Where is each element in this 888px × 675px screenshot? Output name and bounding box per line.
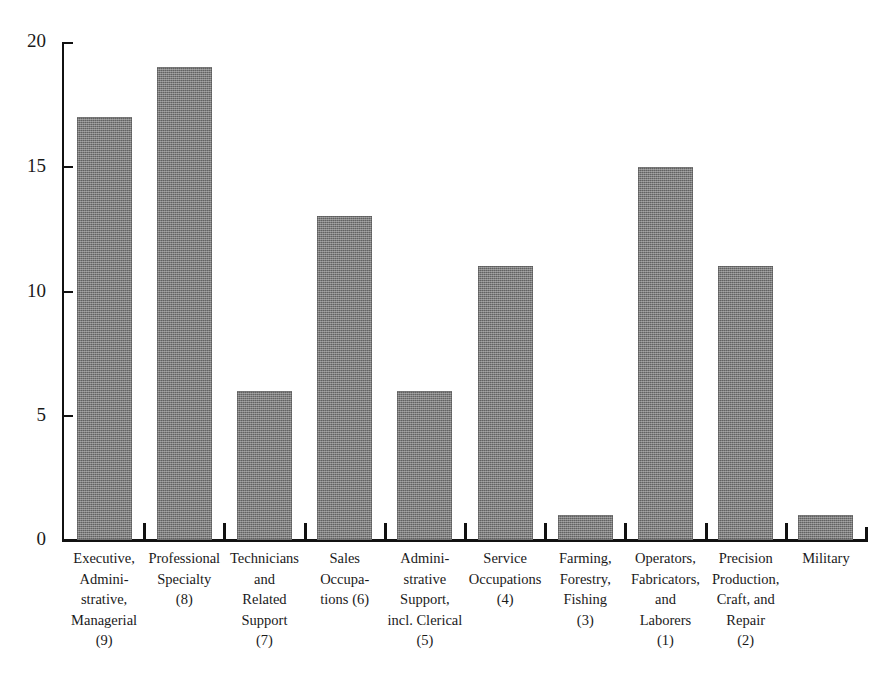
bar-1 — [77, 117, 132, 540]
x-axis-label-2: Professional Specialty (8) — [138, 548, 230, 610]
x-tick-4 — [384, 523, 387, 540]
bar-10 — [798, 515, 853, 540]
x-axis-labels: Executive, Admini- strative, Managerial … — [0, 548, 888, 668]
x-axis-label-10: Military — [780, 548, 872, 569]
x-tick-5 — [464, 523, 467, 540]
bar-7 — [558, 515, 613, 540]
bar-5 — [397, 391, 452, 540]
x-axis-label-3: Technicians and Related Support (7) — [218, 548, 310, 651]
x-axis-label-1: Executive, Admini- strative, Managerial … — [58, 548, 150, 651]
bar-3 — [237, 391, 292, 540]
y-tick-10 — [62, 291, 73, 293]
y-tick-20 — [62, 42, 73, 44]
x-tick-7 — [624, 523, 627, 540]
bar-8 — [638, 167, 693, 541]
x-axis-label-6: Service Occupations (4) — [459, 548, 551, 610]
y-tick-label-5: 5 — [2, 405, 62, 424]
bar-6 — [478, 266, 533, 540]
x-axis-label-8: Operators, Fabricators, and Laborers (1) — [619, 548, 711, 651]
y-tick-label-20: 20 — [2, 31, 62, 50]
x-tick-3 — [304, 523, 307, 540]
x-tick-9 — [785, 523, 788, 540]
x-tick-2 — [223, 523, 226, 540]
x-tick-8 — [705, 523, 708, 540]
y-tick-15 — [62, 166, 73, 168]
y-tick-label-15: 15 — [2, 156, 62, 175]
x-axis-label-7: Farming, Forestry, Fishing (3) — [539, 548, 631, 630]
y-tick-label-10: 10 — [2, 281, 62, 300]
x-axis-right-cap — [865, 527, 868, 541]
x-tick-1 — [143, 523, 146, 540]
bar-chart: 20 15 10 5 0 Executive, Admini- strative… — [0, 0, 888, 675]
x-tick-6 — [544, 523, 547, 540]
x-axis-label-5: Admini- strative Support, incl. Clerical… — [379, 548, 471, 651]
y-tick-label-0: 0 — [2, 529, 62, 548]
bar-2 — [157, 67, 212, 540]
x-axis-label-4: Sales Occupa- tions (6) — [299, 548, 391, 610]
bar-4 — [317, 216, 372, 540]
bar-9 — [718, 266, 773, 540]
y-tick-5 — [62, 415, 73, 417]
x-axis-label-9: Precision Production, Craft, and Repair … — [700, 548, 792, 651]
